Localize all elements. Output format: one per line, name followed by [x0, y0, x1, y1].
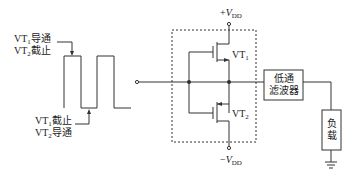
vdd-positive-terminal-icon [227, 22, 230, 25]
pwm-waveform [64, 56, 131, 108]
annotation-vt2-off: VT2截止 [14, 45, 51, 56]
vt1-drain [217, 26, 229, 44]
arrow-high-head-icon [70, 51, 74, 56]
input-terminal-icon [135, 80, 138, 83]
vt1-gate-wire [189, 52, 213, 82]
arrow-high-leader [57, 42, 72, 54]
vt2-label: VT2 [232, 108, 249, 119]
ground-icon [325, 162, 337, 168]
push-pull-enclosure [172, 30, 256, 142]
vt2-gate-wire [189, 82, 213, 113]
annotation-vt1-off: VT1截止 [35, 115, 72, 126]
annotation-vt1-on: VT1导通 [14, 33, 51, 44]
vt1-source [217, 60, 229, 113]
vdd-negative-terminal-icon [227, 146, 230, 149]
vdd-negative-label: −VDD [220, 154, 242, 167]
low-pass-filter-label: 低通 滤波器 [264, 73, 303, 97]
output-junction-dot [227, 80, 231, 84]
vt1-label: VT1 [232, 49, 249, 60]
load-label: 负 载 [322, 118, 341, 142]
annotation-vt2-on: VT2导通 [35, 127, 72, 138]
arrow-low-leader [75, 111, 89, 124]
gate-junction-dot [187, 80, 191, 84]
filter-to-load-wire [303, 82, 331, 110]
vt1-source-arrow-icon [224, 58, 229, 62]
vt2-source-arrow-icon [217, 102, 222, 106]
arrow-low-head-icon [87, 109, 91, 114]
vdd-positive-label: +VDD [220, 7, 242, 20]
